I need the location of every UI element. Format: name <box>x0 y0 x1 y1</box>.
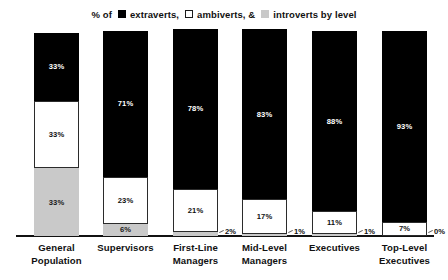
bar-segment-label: 21% <box>188 206 204 215</box>
introvert-callout-label: 0% <box>434 227 445 236</box>
bar-segment-extraverts[interactable]: 88% <box>312 31 357 211</box>
bar-segment-ambiverts[interactable]: 23% <box>103 177 148 224</box>
bar-segment-extraverts[interactable]: 83% <box>242 29 287 199</box>
bar-segment-label: 33% <box>49 130 65 139</box>
introvert-callout-label: 1% <box>294 227 305 236</box>
stacked-bar[interactable]: 78%21%2% <box>173 29 218 236</box>
bar-group[interactable]: 33%33%33% <box>34 0 79 280</box>
bar-segment-introverts[interactable]: 1% <box>312 234 357 236</box>
introvert-callout-label: 1% <box>364 227 375 236</box>
bar-segment-ambiverts[interactable]: 17% <box>242 199 287 234</box>
callout-value: 1% <box>294 227 305 236</box>
callout-leader-line <box>219 230 224 233</box>
category-label-line: Top-Level <box>350 242 448 255</box>
bar-segment-label: 11% <box>327 218 342 227</box>
callout-value: 1% <box>364 227 375 236</box>
bar-group[interactable]: 78%21%2%2% <box>173 0 218 280</box>
bar-segment-ambiverts[interactable]: 11% <box>312 211 357 234</box>
bar-segment-label: 6% <box>120 225 131 234</box>
bar-segment-label: 7% <box>399 224 410 233</box>
category-label: Top-LevelExecutives <box>350 242 448 267</box>
stacked-bar[interactable]: 93%7% <box>382 31 427 236</box>
bar-group[interactable]: 83%17%1%1% <box>242 0 287 280</box>
bar-segment-introverts[interactable]: 2% <box>173 232 218 236</box>
bar-segment-label: 33% <box>49 198 65 207</box>
bar-segment-label: 23% <box>118 196 134 205</box>
category-label-line: Managers <box>210 255 320 268</box>
bar-segment-introverts[interactable]: 33% <box>34 168 79 236</box>
bar-segment-introverts[interactable]: 6% <box>103 224 148 236</box>
stacked-bar[interactable]: 71%23%6% <box>103 31 148 236</box>
bar-segment-label: 71% <box>118 99 134 108</box>
bar-segment-extraverts[interactable]: 93% <box>382 31 427 222</box>
stacked-bar[interactable]: 83%17%1% <box>242 29 287 236</box>
bar-group[interactable]: 71%23%6% <box>103 0 148 280</box>
bar-segment-extraverts[interactable]: 33% <box>34 33 79 101</box>
chart-plot-area: 33%33%33%71%23%6%78%21%2%2%83%17%1%1%88%… <box>0 0 448 280</box>
bar-group[interactable]: 93%7%0% <box>382 0 427 280</box>
bar-segment-extraverts[interactable]: 71% <box>103 31 148 177</box>
bar-segment-label: 17% <box>257 212 273 221</box>
bar-segment-label: 93% <box>397 122 413 131</box>
bar-segment-label: 83% <box>257 110 273 119</box>
bar-segment-label: 88% <box>327 117 343 126</box>
category-label-line: Population <box>2 255 112 268</box>
callout-leader-line <box>288 230 293 233</box>
stacked-bar[interactable]: 33%33%33% <box>34 33 79 236</box>
bar-segment-ambiverts[interactable]: 33% <box>34 101 79 169</box>
bar-segment-label: 33% <box>49 62 65 71</box>
bar-segment-ambiverts[interactable]: 7% <box>382 222 427 236</box>
bar-segment-introverts[interactable]: 1% <box>242 234 287 236</box>
stacked-bar[interactable]: 88%11%1% <box>312 31 357 236</box>
category-label-line: Executives <box>350 255 448 268</box>
callout-value: 2% <box>225 227 236 236</box>
callout-value: 0% <box>434 227 445 236</box>
introvert-callout-label: 2% <box>225 227 236 236</box>
bar-segment-label: 78% <box>188 104 204 113</box>
callout-leader-line <box>358 230 363 233</box>
bar-group[interactable]: 88%11%1%1% <box>312 0 357 280</box>
callout-leader-line <box>428 230 433 233</box>
bar-segment-extraverts[interactable]: 78% <box>173 29 218 189</box>
bar-segment-ambiverts[interactable]: 21% <box>173 189 218 232</box>
